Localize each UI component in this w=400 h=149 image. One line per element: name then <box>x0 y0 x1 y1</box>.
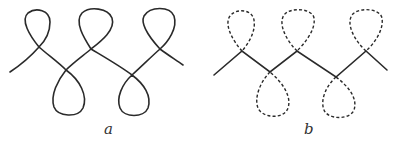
figure-canvas <box>0 0 400 149</box>
panel-a-curve <box>10 9 183 116</box>
panel-a-label: a <box>104 120 113 138</box>
panel-b-zigzag <box>214 51 387 77</box>
panel-b-loops <box>228 10 382 118</box>
panel-b-label: b <box>304 120 314 138</box>
